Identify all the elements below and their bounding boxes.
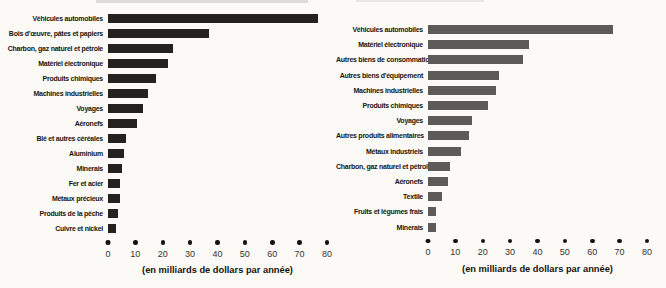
axis-tick-label: 70 <box>615 247 625 257</box>
chart-row: Cuivre et nickel <box>2 221 327 236</box>
axis-tick-label: 30 <box>185 249 195 259</box>
bar-track <box>428 55 646 65</box>
axis-tick: 40 <box>532 239 542 258</box>
chart-row: Produits de la pêche <box>2 206 327 221</box>
scan-artifact <box>96 0 308 3</box>
bar-chart-right: Véhicules automobilesMatériel électroniq… <box>336 22 647 283</box>
bar-track <box>428 40 646 50</box>
bar-label: Fruits et légumes frais <box>336 208 428 215</box>
scan-artifact <box>356 0 484 2</box>
bar-track <box>108 104 326 114</box>
bar-label: Blé et autres céréales <box>2 135 108 142</box>
axis-dot <box>617 239 622 244</box>
axis-tick-label: 0 <box>105 249 110 259</box>
axis-tick-label: 40 <box>212 249 222 259</box>
chart-row: Voyages <box>2 101 327 116</box>
axis-tick: 10 <box>450 239 460 258</box>
axis-tick: 10 <box>130 240 140 259</box>
axis-tick: 40 <box>212 240 222 259</box>
chart-row: Autres biens d'équipement <box>336 68 647 83</box>
axis-dot <box>215 240 220 245</box>
chart-row: Véhicules automobiles <box>2 11 327 26</box>
chart-row: Autres produits alimentaires <box>336 128 647 143</box>
x-axis: 01020304050607080(en milliards de dollar… <box>428 239 647 283</box>
axis-tick: 80 <box>642 239 652 258</box>
bar-track <box>108 224 326 234</box>
axis-dot <box>590 239 595 244</box>
bar <box>428 40 529 49</box>
chart-rows: Véhicules automobilesMatériel électroniq… <box>336 22 647 235</box>
chart-row: Matériel électronique <box>336 37 647 52</box>
axis-dot <box>508 239 513 244</box>
chart-row: Voyages <box>336 113 647 128</box>
axis-dot <box>480 239 485 244</box>
axis-tick-label: 10 <box>450 247 460 257</box>
bar-track <box>108 14 326 24</box>
bar-track <box>108 44 326 54</box>
bar <box>108 179 120 188</box>
bar <box>428 207 436 216</box>
axis-dot <box>325 240 330 245</box>
chart-row: Charbon, gaz naturel et pétrole <box>2 41 327 56</box>
bar-track <box>108 194 326 204</box>
bar-label: Matériel électronique <box>2 60 108 67</box>
bar-label: Minerais <box>2 165 108 172</box>
bar <box>108 164 122 173</box>
bar-label: Aéronefs <box>2 120 108 127</box>
bar-label: Cuivre et nickel <box>2 225 108 232</box>
bar-label: Machines industrielles <box>2 90 108 97</box>
axis-tick-label: 30 <box>505 247 515 257</box>
axis-tick: 30 <box>185 240 195 259</box>
axis-tick-label: 60 <box>587 247 597 257</box>
axis-tick: 60 <box>587 239 597 258</box>
axis-dot <box>160 240 165 245</box>
bar-track <box>428 146 646 156</box>
bar-label: Bois d'œuvre, pâtes et papiers <box>2 30 108 37</box>
axis-tick-label: 0 <box>425 247 430 257</box>
bar <box>108 134 126 143</box>
axis-tick-label: 50 <box>560 247 570 257</box>
chart-row: Aéronefs <box>2 116 327 131</box>
axis-tick: 60 <box>267 240 277 259</box>
axis-tick-label: 70 <box>295 249 305 259</box>
axis-dot <box>297 240 302 245</box>
chart-rows: Véhicules automobilesBois d'œuvre, pâtes… <box>2 11 327 236</box>
bar-label: Autres biens de consommation <box>336 56 428 63</box>
bar-label: Produits chimiques <box>336 102 428 109</box>
axis-dot <box>535 239 540 244</box>
chart-row: Métaux industriels <box>336 144 647 159</box>
axis-dot <box>106 240 111 245</box>
bar <box>108 119 137 128</box>
chart-row: Bois d'œuvre, pâtes et papiers <box>2 26 327 41</box>
bar-track <box>428 176 646 186</box>
bar-track <box>108 179 326 189</box>
axis-tick-label: 60 <box>267 249 277 259</box>
axis-title: (en milliards de dollars par année) <box>108 265 327 275</box>
chart-row: Produits chimiques <box>2 71 327 86</box>
bar <box>428 192 442 201</box>
bar <box>428 116 472 125</box>
bar-track <box>428 25 646 35</box>
chart-row: Textile <box>336 189 647 204</box>
axis-dot <box>563 239 568 244</box>
chart-row: Véhicules automobiles <box>336 22 647 37</box>
bar-track <box>428 207 646 217</box>
chart-row: Machines industrielles <box>336 83 647 98</box>
chart-row: Blé et autres céréales <box>2 131 327 146</box>
bar-track <box>428 222 646 232</box>
bar-track <box>428 131 646 141</box>
axis-tick: 0 <box>105 240 110 259</box>
bar <box>428 147 461 156</box>
chart-row: Métaux précieux <box>2 191 327 206</box>
axis-tick: 20 <box>158 240 168 259</box>
chart-row: Aluminium <box>2 146 327 161</box>
bar <box>108 104 143 113</box>
chart-row: Produits chimiques <box>336 98 647 113</box>
page: Véhicules automobilesBois d'œuvre, pâtes… <box>0 0 666 288</box>
axis-tick: 70 <box>295 240 305 259</box>
chart-row: Fruits et légumes frais <box>336 204 647 219</box>
bar-label: Aéronefs <box>336 178 428 185</box>
bar-track <box>428 101 646 111</box>
bar <box>428 101 488 110</box>
axis-tick-label: 20 <box>158 249 168 259</box>
